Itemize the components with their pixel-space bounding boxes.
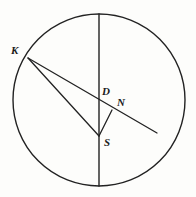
geometry-canvas [0, 0, 196, 197]
ray-from-k-through-d-n [28, 58, 157, 133]
point-label-k: K [11, 45, 18, 56]
point-label-s: S [104, 137, 110, 148]
point-label-d: D [102, 86, 110, 97]
point-label-n: N [117, 97, 125, 108]
segment-k-to-s [28, 58, 99, 136]
geometry-diagram: K D N S [0, 0, 196, 197]
segment-s-to-n [99, 110, 112, 136]
